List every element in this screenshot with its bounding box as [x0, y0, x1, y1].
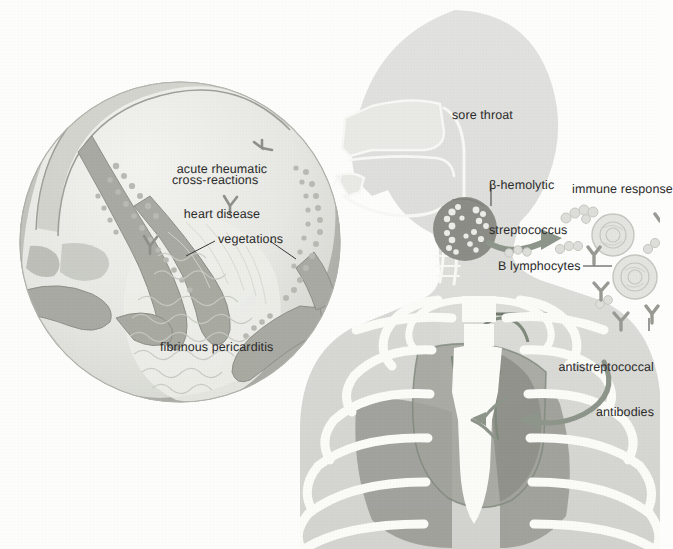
- label-beta-hemolytic-streptococcus: β-hemolytic streptococcus: [489, 148, 567, 268]
- label-b-lymphocytes: B lymphocytes: [498, 259, 581, 274]
- label-vegetations: vegetations: [218, 232, 283, 247]
- label-line-2: antibodies: [462, 405, 654, 420]
- label-antistreptococcal-antibodies: antistreptococcal antibodies: [462, 330, 654, 450]
- label-cross-reactions: cross-reactions: [172, 173, 258, 188]
- b-lymphocyte-cell: [613, 255, 657, 299]
- tonsil-infection-region: [433, 197, 497, 261]
- label-line-2: streptococcus: [489, 223, 567, 238]
- label-line-2: heart disease: [166, 207, 278, 222]
- label-immune-response: immune response: [572, 182, 673, 197]
- label-line-1: β-hemolytic: [489, 178, 567, 193]
- label-fibrinous-pericarditis: fibrinous pericarditis: [160, 340, 273, 355]
- tonsil-disc: [433, 197, 497, 261]
- label-sore-throat: sore throat: [452, 108, 513, 123]
- label-line-1: antistreptococcal: [462, 360, 654, 375]
